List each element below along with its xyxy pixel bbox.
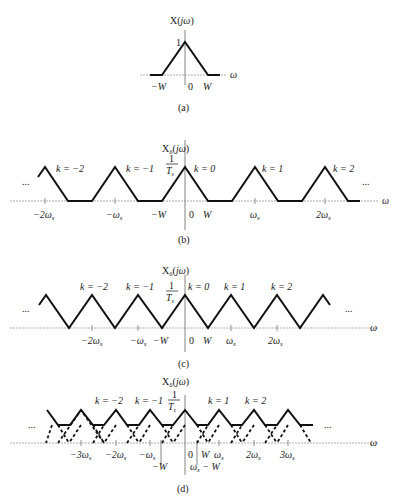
tick-w: W xyxy=(201,449,211,460)
tick-neg-2ws: −2ωs xyxy=(33,209,55,222)
k-label-neg2: k = −2 xyxy=(56,163,84,174)
y-label: Xδ(jω) xyxy=(162,376,189,389)
x-label: ω xyxy=(230,69,237,80)
peak-label-num: 1 xyxy=(169,280,174,291)
caption: (b) xyxy=(178,234,190,246)
k-label-2: k = 2 xyxy=(271,281,292,292)
tick-neg-ws: −ωs xyxy=(130,335,147,348)
tick-neg-w: −W xyxy=(151,209,168,220)
k-label-1: k = 1 xyxy=(262,163,283,174)
panel-c: Xδ(jω) 1 Ts k = −2 k = −1 k = 0 k = 1 k … xyxy=(10,265,378,370)
tick-zero: 0 xyxy=(188,449,193,460)
tick-neg-2ws: −2ωs xyxy=(81,335,103,348)
k-label-0: k = 0 xyxy=(188,281,209,292)
tick-2ws: 2ωs xyxy=(246,449,261,462)
caption: (a) xyxy=(178,102,189,114)
peak-label-num: 1 xyxy=(172,389,177,400)
k-label-1: k = 1 xyxy=(224,281,245,292)
tick-w: W xyxy=(203,335,213,346)
ellipsis-right: ... xyxy=(324,419,332,430)
k-label-neg2: k = −2 xyxy=(95,395,123,406)
ellipsis-left: ... xyxy=(22,303,30,314)
x-label: ω xyxy=(382,195,389,206)
tick-neg-w: −W xyxy=(152,461,169,472)
caption: (d) xyxy=(177,483,189,495)
k-label-2: k = 2 xyxy=(245,395,266,406)
aliased-spectrum xyxy=(47,410,313,425)
tick-neg-2ws: −2ωs xyxy=(105,449,127,462)
tick-w: W xyxy=(203,81,213,92)
peak-label-num: 1 xyxy=(169,153,174,164)
x-label: ω xyxy=(370,322,377,333)
periodic-spectrum xyxy=(39,295,330,328)
panel-d: Xδ(jω) 1 Ts k = −2 k = −1 k = 1 k = 2 ..… xyxy=(10,376,378,495)
panel-b: Xδ(jω) 1 Ts k = −2 k = −1 k = 0 k = 1 k … xyxy=(10,140,389,246)
tick-2ws: 2ωs xyxy=(316,209,331,222)
tick-ws: ωs xyxy=(226,335,236,348)
k-label-1: k = 1 xyxy=(208,395,229,406)
tick-w: W xyxy=(203,209,213,220)
peak-label-den: Ts xyxy=(166,165,175,177)
tick-neg-w: −W xyxy=(153,335,170,346)
tick-zero: 0 xyxy=(188,81,193,92)
tick-zero: 0 xyxy=(189,209,194,220)
peak-label: 1 xyxy=(176,37,181,48)
ellipsis-right: ... xyxy=(345,303,353,314)
caption: (c) xyxy=(178,358,189,370)
tick-zero: 0 xyxy=(189,335,194,346)
tick-ws-minus-w: ωs − W xyxy=(190,461,222,474)
ellipsis-left: ... xyxy=(28,419,36,430)
k-label-neg2: k = −2 xyxy=(80,281,108,292)
peak-label-den: Ts xyxy=(166,292,175,304)
k-label-0: k = 0 xyxy=(194,163,215,174)
panel-a: X(jω) 1 ω −W 0 W (a) xyxy=(140,15,237,114)
x-label: ω xyxy=(370,437,377,448)
sampling-spectra-diagram: X(jω) 1 ω −W 0 W (a) Xδ(jω) 1 Ts k = −2 … xyxy=(0,0,393,504)
peak-label-den: Ts xyxy=(168,401,177,413)
tick-neg-ws: −ωs xyxy=(106,209,123,222)
k-label-neg1: k = −1 xyxy=(126,163,154,174)
y-label: X(jω) xyxy=(170,15,194,27)
tick-3ws: 3ωs xyxy=(279,449,295,462)
k-label-neg1: k = −1 xyxy=(126,281,154,292)
tick-2ws: 2ωs xyxy=(268,335,283,348)
tick-ws: ωs xyxy=(250,209,260,222)
k-label-2: k = 2 xyxy=(333,163,354,174)
k-label-neg1: k = −1 xyxy=(135,395,163,406)
ellipsis-left: ... xyxy=(22,176,30,187)
tick-neg-3ws: −3ωs xyxy=(70,449,92,462)
ellipsis-right: ... xyxy=(362,176,370,187)
tick-neg-w: −W xyxy=(151,81,168,92)
